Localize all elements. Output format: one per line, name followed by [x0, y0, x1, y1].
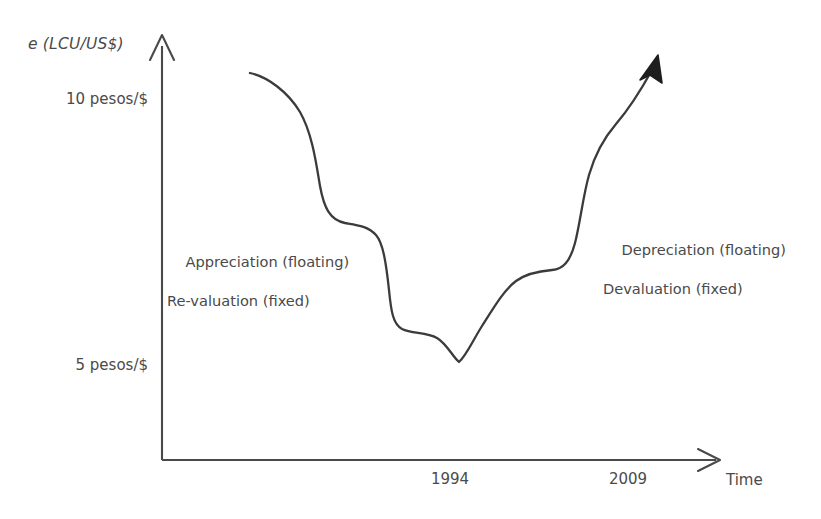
x-axis-title: Time — [726, 470, 763, 490]
x-tick-label-1994: 1994 — [405, 469, 495, 489]
y-tick-label-5-pesos: 5 pesos/$ — [28, 355, 148, 375]
annotation-left-line1: Appreciation (floating) — [186, 253, 350, 270]
y-tick-label-10-pesos: 10 pesos/$ — [28, 89, 148, 109]
annotation-left: Appreciation (floating) Re-valuation (fi… — [167, 232, 349, 350]
x-tick-label-2009: 2009 — [583, 469, 673, 489]
exchange-rate-figure: e (LCU/US$) 10 pesos/$ 5 pesos/$ 1994 20… — [0, 0, 821, 519]
curve-arrowhead-icon — [640, 55, 662, 83]
annotation-right-line2: Devaluation (fixed) — [603, 279, 786, 299]
y-axis-title: e (LCU/US$) — [28, 34, 124, 55]
annotation-left-line2: Re-valuation (fixed) — [167, 291, 349, 311]
annotation-right: Depreciation (floating) Devaluation (fix… — [603, 220, 786, 338]
annotation-right-line1: Depreciation (floating) — [622, 241, 787, 258]
